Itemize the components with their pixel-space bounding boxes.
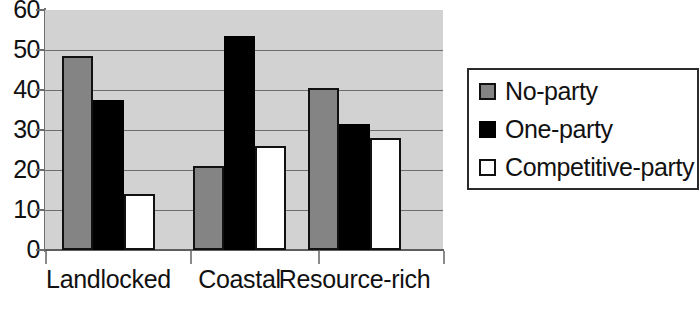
y-tick-label: 50	[0, 37, 40, 62]
bar	[339, 124, 370, 250]
legend-label: Competitive-party	[505, 154, 694, 181]
legend-item: No-party	[479, 76, 598, 106]
x-tick-mark	[443, 251, 445, 264]
y-tick-label: 60	[0, 0, 40, 22]
x-tick-mark	[318, 251, 320, 264]
x-axis-category-labels: LandlockedCoastalResource-rich	[0, 264, 470, 304]
bar	[370, 138, 401, 250]
y-axis-tick-labels: 0102030405060	[0, 0, 40, 262]
y-tick-label: 20	[0, 157, 40, 182]
y-tick-label: 30	[0, 117, 40, 142]
bar	[193, 166, 224, 250]
x-tick-mark	[190, 251, 192, 264]
legend-item: One-party	[479, 114, 613, 144]
legend-label: No-party	[505, 78, 598, 105]
bar	[255, 146, 286, 250]
legend: No-partyOne-partyCompetitive-party	[467, 68, 699, 190]
legend-swatch-icon	[479, 121, 496, 138]
legend-item: Competitive-party	[479, 152, 694, 182]
bar	[62, 56, 93, 250]
legend-label: One-party	[505, 116, 613, 143]
bar	[308, 88, 339, 250]
y-tick-label: 10	[0, 197, 40, 222]
bar	[124, 194, 155, 250]
bar	[224, 36, 255, 250]
bar	[93, 100, 124, 250]
y-tick-label: 40	[0, 77, 40, 102]
bar-chart: 0102030405060 LandlockedCoastalResource-…	[0, 0, 700, 335]
legend-swatch-icon	[479, 159, 496, 176]
x-category-label: Resource-rich	[245, 264, 465, 294]
legend-swatch-icon	[479, 83, 496, 100]
y-tick-label: 0	[0, 237, 40, 262]
bars-layer	[45, 10, 443, 250]
x-tick-mark	[45, 251, 47, 264]
